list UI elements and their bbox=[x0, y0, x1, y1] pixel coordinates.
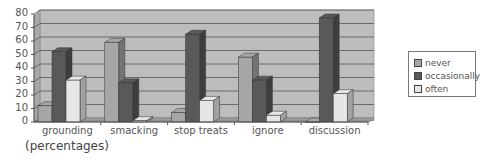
legend-swatch-occasionally bbox=[414, 72, 422, 80]
y-tick-label: 80 bbox=[2, 7, 28, 18]
y-tick-label: 30 bbox=[2, 75, 28, 86]
x-tick-label: discussion bbox=[300, 125, 370, 136]
legend-label: often bbox=[425, 84, 448, 94]
chart-caption: (percentages) bbox=[25, 139, 109, 153]
y-tick-label: 50 bbox=[2, 48, 28, 59]
y-tick-label: 40 bbox=[2, 61, 28, 72]
bar-discussion-often bbox=[333, 90, 353, 122]
legend-swatch-never bbox=[414, 59, 422, 67]
y-tick-label: 60 bbox=[2, 34, 28, 45]
legend-item-occasionally: occasionally bbox=[414, 71, 480, 81]
y-tick-label: 70 bbox=[2, 21, 28, 32]
x-tick-label: grounding bbox=[32, 125, 102, 136]
legend-item-often: often bbox=[414, 84, 448, 94]
legend: never occasionally often bbox=[408, 51, 476, 97]
legend-label: occasionally bbox=[425, 71, 480, 81]
y-tick-label: 0 bbox=[2, 115, 28, 126]
y-tick-label: 10 bbox=[2, 102, 28, 113]
bar-stop-treats-often bbox=[200, 96, 220, 122]
x-tick-label: smacking bbox=[99, 125, 169, 136]
legend-label: never bbox=[425, 58, 451, 68]
bar-smacking-occasionally bbox=[119, 79, 139, 122]
x-tick-label: ignore bbox=[233, 125, 303, 136]
x-tick-label: stop treats bbox=[166, 125, 236, 136]
legend-swatch-often bbox=[414, 85, 422, 93]
y-tick-label: 20 bbox=[2, 88, 28, 99]
legend-item-never: never bbox=[414, 58, 451, 68]
bar-grounding-often bbox=[66, 76, 86, 122]
